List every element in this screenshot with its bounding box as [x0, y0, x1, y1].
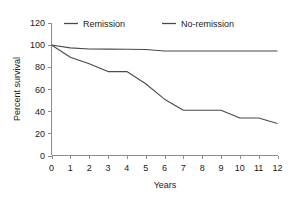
y-tick-label-20: 20	[35, 129, 45, 139]
x-tick-label-9: 9	[218, 163, 223, 173]
y-tick-label-100: 100	[30, 40, 45, 50]
series-line-no-remission	[52, 45, 278, 123]
chart-canvas: 020406080100120 0123456789101112 Remissi…	[0, 0, 291, 203]
x-tick-label-2: 2	[87, 163, 92, 173]
legend-entry-remission: Remission	[64, 19, 125, 29]
y-tick-label-40: 40	[35, 107, 45, 117]
y-tick-label-80: 80	[35, 62, 45, 72]
x-tick-label-10: 10	[235, 163, 245, 173]
y-tick-label-60: 60	[35, 85, 45, 95]
x-tick-label-6: 6	[162, 163, 167, 173]
y-axis-ticks	[48, 24, 52, 157]
x-tick-label-12: 12	[272, 163, 282, 173]
x-tick-label-8: 8	[200, 163, 205, 173]
x-tick-label-7: 7	[181, 163, 186, 173]
legend: Remission No-remission	[64, 19, 234, 29]
legend-label-remission: Remission	[83, 19, 125, 29]
x-tick-label-1: 1	[68, 163, 73, 173]
x-axis-tick-labels: 0123456789101112	[49, 163, 283, 173]
x-tick-label-4: 4	[124, 163, 129, 173]
y-tick-label-120: 120	[30, 18, 45, 28]
x-axis-ticks	[53, 156, 279, 160]
x-tick-label-0: 0	[49, 163, 54, 173]
legend-label-no-remission: No-remission	[181, 19, 234, 29]
y-axis-title: Percent survival	[12, 57, 22, 121]
series-line-remission	[52, 45, 278, 51]
x-tick-label-5: 5	[143, 163, 148, 173]
y-tick-label-0: 0	[40, 151, 45, 161]
survival-chart-figure: 020406080100120 0123456789101112 Remissi…	[0, 0, 291, 203]
x-tick-label-3: 3	[105, 163, 110, 173]
legend-entry-no-remission: No-remission	[162, 19, 234, 29]
y-axis-tick-labels: 020406080100120	[30, 18, 45, 161]
x-tick-label-11: 11	[254, 163, 263, 173]
x-axis-title: Years	[154, 180, 177, 190]
